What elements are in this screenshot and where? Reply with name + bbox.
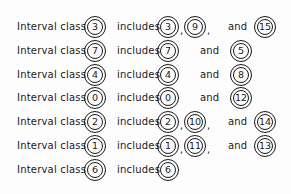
interval-class-circle: 7 — [84, 40, 106, 62]
comma: , — [207, 120, 210, 131]
interval-class-row: Interval class7includes7and5 — [0, 40, 291, 64]
interval-class-circle-value: 0 — [87, 90, 103, 106]
includes-label: includes — [117, 164, 160, 175]
includes-label: includes — [117, 92, 160, 103]
interval-class-circle: 2 — [84, 111, 106, 133]
member-circle-value: 9 — [187, 19, 203, 35]
interval-class-row: Interval class2includes2,10,and14 — [0, 111, 291, 135]
interval-class-label: Interval class — [17, 92, 86, 103]
interval-class-circle-value: 7 — [87, 43, 103, 59]
member-circle-value: 1 — [160, 138, 176, 154]
member-circle-value: 15 — [257, 19, 273, 35]
member-circle-value: 11 — [187, 138, 203, 154]
comma: , — [207, 25, 210, 36]
interval-class-label: Interval class — [17, 140, 86, 151]
includes-label: includes — [117, 21, 160, 32]
includes-label: includes — [117, 45, 160, 56]
member-circle-value: 0 — [160, 90, 176, 106]
comma: , — [180, 120, 183, 131]
interval-class-label: Interval class — [17, 116, 86, 127]
and-label: and — [200, 69, 219, 80]
comma: , — [207, 144, 210, 155]
member-circle: 9 — [184, 16, 206, 38]
member-circle-value: 2 — [160, 114, 176, 130]
member-circle: 8 — [230, 64, 252, 86]
member-circle: 3 — [157, 16, 179, 38]
interval-class-circle-value: 1 — [87, 138, 103, 154]
includes-label: includes — [117, 140, 160, 151]
and-label: and — [228, 21, 247, 32]
interval-class-row: Interval class3includes3,9,and15 — [0, 16, 291, 40]
includes-label: includes — [117, 69, 160, 80]
member-circle-value: 6 — [160, 162, 176, 178]
interval-class-label: Interval class — [17, 164, 86, 175]
interval-class-circle-value: 6 — [87, 162, 103, 178]
member-circle-value: 3 — [160, 19, 176, 35]
member-circle: 1 — [157, 135, 179, 157]
interval-class-row: Interval class6includes6 — [0, 159, 291, 183]
interval-class-label: Interval class — [17, 45, 86, 56]
member-circle-value: 5 — [233, 43, 249, 59]
interval-class-circle: 4 — [84, 64, 106, 86]
member-circle: 15 — [254, 16, 276, 38]
member-circle-value: 14 — [257, 114, 273, 130]
and-label: and — [200, 45, 219, 56]
interval-class-circle: 0 — [84, 87, 106, 109]
member-circle: 5 — [230, 40, 252, 62]
interval-class-circle-value: 2 — [87, 114, 103, 130]
member-circle-value: 8 — [233, 67, 249, 83]
member-circle-value: 4 — [160, 67, 176, 83]
member-circle-value: 7 — [160, 43, 176, 59]
member-circle: 11 — [184, 135, 206, 157]
member-circle: 2 — [157, 111, 179, 133]
member-circle: 4 — [157, 64, 179, 86]
interval-class-circle-value: 4 — [87, 67, 103, 83]
interval-class-circle: 3 — [84, 16, 106, 38]
member-circle: 6 — [157, 159, 179, 181]
comma: , — [180, 144, 183, 155]
interval-class-row: Interval class1includes1,11,and13 — [0, 135, 291, 159]
member-circle: 12 — [230, 87, 252, 109]
and-label: and — [228, 116, 247, 127]
comma: , — [180, 25, 183, 36]
interval-class-circle: 6 — [84, 159, 106, 181]
member-circle: 10 — [184, 111, 206, 133]
member-circle-value: 10 — [187, 114, 203, 130]
member-circle: 7 — [157, 40, 179, 62]
interval-class-circle-value: 3 — [87, 19, 103, 35]
includes-label: includes — [117, 116, 160, 127]
interval-class-row: Interval class0includes0and12 — [0, 87, 291, 111]
and-label: and — [200, 92, 219, 103]
interval-class-circle: 1 — [84, 135, 106, 157]
member-circle-value: 12 — [233, 90, 249, 106]
interval-class-row: Interval class4includes4and8 — [0, 64, 291, 88]
interval-class-label: Interval class — [17, 21, 86, 32]
member-circle: 14 — [254, 111, 276, 133]
interval-class-label: Interval class — [17, 69, 86, 80]
and-label: and — [228, 140, 247, 151]
member-circle: 13 — [254, 135, 276, 157]
member-circle-value: 13 — [257, 138, 273, 154]
member-circle: 0 — [157, 87, 179, 109]
